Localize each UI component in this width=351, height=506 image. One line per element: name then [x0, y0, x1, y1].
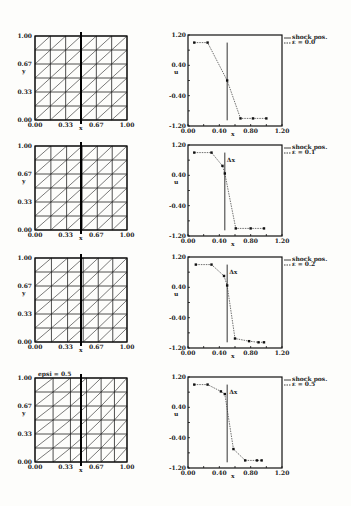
solution-plot-2: -1.20-0.400.401.20u0.000.400.801.20xΔxsh… [169, 141, 327, 247]
delta-x-annotation: Δx [229, 268, 238, 275]
data-point [206, 41, 208, 43]
plot-ylabel: u [174, 68, 179, 75]
mesh-ylabel: y [21, 289, 26, 297]
data-point [265, 117, 267, 119]
mesh-xtick: 0.00 [28, 231, 43, 238]
mesh-xtick: 0.33 [58, 463, 73, 470]
mesh-xlabel: x [79, 124, 83, 131]
solution-line [194, 153, 264, 229]
mesh-ytick: 0.33 [17, 88, 32, 95]
data-point [239, 117, 241, 119]
mesh-ylabel: y [21, 177, 26, 185]
mesh-ylabel: y [21, 67, 26, 75]
data-point [210, 263, 212, 265]
data-point [263, 227, 265, 229]
data-point [226, 79, 228, 81]
plot-frame [188, 35, 282, 126]
solution-plot-3: -1.20-0.400.401.20u0.000.400.801.20xΔxsh… [169, 253, 327, 359]
legend-epsilon: ε = 0.2 [292, 260, 315, 267]
mesh-xtick: 0.33 [58, 343, 73, 350]
mesh-ytick: 0.33 [17, 198, 32, 205]
data-point [206, 383, 208, 385]
plot-xtick: 0.40 [212, 237, 227, 244]
data-point [221, 165, 223, 167]
solution-line [194, 385, 261, 461]
plot-ylabel: u [174, 410, 179, 417]
data-point [220, 390, 222, 392]
plot-xtick: 0.00 [181, 469, 196, 476]
plot-xtick: 0.40 [212, 127, 227, 134]
mesh-xtick: 0.67 [89, 463, 104, 470]
data-point [244, 459, 246, 461]
data-point [224, 393, 226, 395]
plot-ytick: 0.40 [171, 283, 186, 290]
data-point [210, 151, 212, 153]
mesh-xtick: 1.00 [120, 343, 135, 350]
plot-xlabel: x [231, 352, 235, 359]
mesh-panel-2: 0.000.330.671.00y0.000.330.671.00x [17, 142, 134, 241]
plot-xtick: 1.20 [275, 349, 290, 356]
mesh-ytick: 0.33 [17, 430, 32, 437]
data-point [224, 172, 226, 174]
data-point [257, 341, 259, 343]
mesh-xlabel: x [79, 346, 83, 353]
legend-epsilon: ε = 0.5 [292, 380, 315, 387]
plot-ytick: 0.40 [171, 61, 186, 68]
mesh-ytick: 1.00 [17, 374, 32, 381]
data-point [249, 227, 251, 229]
data-point [248, 340, 250, 342]
mesh-xtick: 0.67 [89, 121, 104, 128]
data-point [263, 341, 265, 343]
mesh-ytick: 1.00 [17, 142, 32, 149]
figure-canvas: 0.000.330.671.00y0.000.330.671.00x-1.20-… [0, 0, 351, 506]
mesh-xtick: 1.00 [120, 231, 135, 238]
solution-plot-4: -1.20-0.400.401.20u0.000.400.801.20xΔxsh… [169, 373, 327, 479]
solution-plot-1: -1.20-0.400.401.20u0.000.400.801.20xshoc… [169, 31, 327, 137]
mesh-xtick: 0.33 [58, 231, 73, 238]
plot-ytick: 1.20 [171, 253, 186, 260]
mesh-xlabel: x [79, 466, 83, 473]
data-point [195, 263, 197, 265]
data-point [256, 459, 258, 461]
data-point [234, 337, 236, 339]
mesh-xtick: 0.67 [89, 343, 104, 350]
plot-xtick: 0.40 [212, 469, 227, 476]
mesh-panel-4: 0.000.330.671.00y0.000.330.671.00xepsi =… [17, 370, 134, 473]
plot-ytick: -0.40 [169, 202, 186, 209]
data-point [252, 117, 254, 119]
plot-xlabel: x [231, 240, 235, 247]
plot-ytick: 1.20 [171, 141, 186, 148]
plot-xtick: 0.00 [181, 237, 196, 244]
solution-line [194, 43, 266, 119]
mesh-xtick: 0.00 [28, 121, 43, 128]
data-point [193, 383, 195, 385]
mesh-xtick: 0.67 [89, 231, 104, 238]
legend-epsilon: ε = 0.0 [292, 38, 315, 45]
plot-ytick: 1.20 [171, 31, 186, 38]
legend-epsilon: ε = 0.1 [292, 148, 315, 155]
mesh-xlabel: x [79, 234, 83, 241]
mesh-panel-3: 0.000.330.671.00y0.000.330.671.00x [17, 254, 134, 353]
data-point [193, 41, 195, 43]
plot-ytick: -0.40 [169, 314, 186, 321]
mesh-ytick: 0.33 [17, 310, 32, 317]
plot-ytick: 0.40 [171, 171, 186, 178]
plot-xtick: 0.00 [181, 349, 196, 356]
plot-xtick: 1.20 [275, 469, 290, 476]
mesh-ytick: 1.00 [17, 254, 32, 261]
solution-line [196, 265, 264, 343]
mesh-annotation: epsi = 0.5 [38, 370, 71, 378]
plot-xtick: 0.40 [212, 349, 227, 356]
plot-ylabel: u [174, 290, 179, 297]
plot-xlabel: x [231, 130, 235, 137]
plot-ylabel: u [174, 178, 179, 185]
plot-xtick: 1.20 [275, 127, 290, 134]
mesh-xtick: 0.33 [58, 121, 73, 128]
plot-ytick: 0.40 [171, 403, 186, 410]
plot-ytick: -0.40 [169, 92, 186, 99]
plot-ytick: -0.40 [169, 434, 186, 441]
data-point [223, 275, 225, 277]
mesh-xtick: 1.00 [120, 121, 135, 128]
data-point [193, 151, 195, 153]
plot-xtick: 0.80 [243, 469, 258, 476]
